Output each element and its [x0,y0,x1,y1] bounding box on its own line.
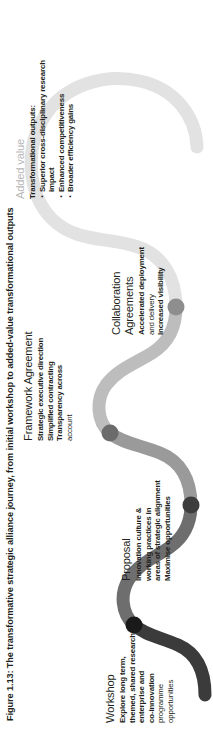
list-item: Broader efficiency gains [66,49,76,199]
stage-proposal-line-4: Maximise opportunities [163,431,173,581]
stage-proposal: Proposal Innovation culture & working pr… [120,431,172,581]
stage-framework-agreement-line-4: account [65,291,75,441]
stage-framework-agreement-title: Framework Agreement [22,291,35,441]
stage-added-value: Added value Transformational outputs: Su… [14,49,76,199]
stage-workshop-title: Workshop [104,573,117,723]
stage-added-value-line-1: Transformational outputs: [28,49,38,199]
stage-framework-agreement-line-3: Transparency across [55,291,65,441]
stage-collaboration-agreements-line-3: Increased visibility [156,185,166,335]
list-item: Superior cross-disciplinary research imp… [38,49,57,199]
stage-framework-agreement: Framework Agreement Strategic executive … [22,291,74,441]
node-marker-2 [183,497,200,514]
stage-workshop-line-3: enterprise and [137,573,147,723]
figure-container: Figure 1.13: The transformative strategi… [0,0,213,729]
stage-proposal-line-2: working practices in [144,431,154,581]
stage-collaboration-agreements-line-1: Accelerated deployment [137,185,147,335]
stage-collaboration-agreements-line-2: and delivery [147,185,157,335]
stage-proposal-line-3: areas of strategic alignment [153,431,163,581]
stage-workshop-line-1: Explore long term, [118,573,128,723]
stage-proposal-line-1: Innovation culture & [134,431,144,581]
stage-proposal-title: Proposal [120,431,133,581]
stage-added-value-title: Added value [14,49,27,199]
stage-workshop-line-5: programme [156,573,166,723]
stage-collaboration-agreements-title: Collaboration Agreements [110,185,136,335]
stage-collaboration-agreements: Collaboration Agreements Accelerated dep… [110,185,166,335]
stage-workshop-line-6: opportunities [166,573,176,723]
node-marker-4 [168,299,185,316]
node-marker-3 [102,425,119,442]
stage-workshop: Workshop Explore long term, themed, shar… [104,573,176,723]
rotated-figure-canvas: Figure 1.13: The transformative strategi… [0,0,213,729]
list-item: Enhanced competitiveness [57,49,67,199]
stage-framework-agreement-line-2: Simplified contracting [46,291,56,441]
stage-workshop-line-2: themed, shared research, [128,573,138,723]
stage-added-value-bullets: Superior cross-disciplinary research imp… [38,49,76,199]
stage-framework-agreement-line-1: Strategic executive direction [36,291,46,441]
stage-workshop-line-4: co-innovation [147,573,157,723]
